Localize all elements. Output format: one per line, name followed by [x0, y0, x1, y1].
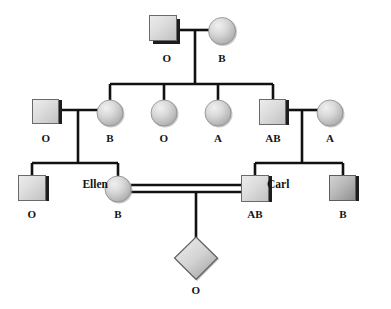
blood-type-label-iii-3: AB [247, 209, 263, 220]
symbol-iv-1 [175, 237, 220, 281]
symbol-iii-2 [105, 176, 133, 204]
blood-type-label-ii-6: A [326, 133, 334, 144]
blood-type-label-ii-2: B [106, 133, 114, 144]
symbol-ii-3 [151, 100, 179, 128]
blood-type-label-iv-1: O [192, 285, 201, 296]
blood-type-label-ii-4: A [214, 133, 222, 144]
connector-lines [32, 30, 343, 238]
pedigree-graphics [0, 0, 391, 309]
blood-type-label-i-2: B [218, 53, 226, 64]
blood-type-label-iii-4: B [339, 209, 347, 220]
blood-type-label-ii-3: O [160, 133, 169, 144]
person-name-carl: Carl [267, 179, 289, 191]
symbol-i-2 [209, 18, 238, 47]
blood-type-label-ii-1: O [42, 133, 51, 144]
pedigree-chart: O B O B O A AB A O B AB B O Ellen Carl [0, 0, 391, 309]
blood-type-label-iii-2: B [114, 209, 122, 220]
symbol-ii-6 [317, 100, 345, 128]
pedigree-symbols [19, 16, 360, 282]
symbol-ii-4 [205, 100, 233, 128]
symbol-iii-1 [19, 176, 50, 202]
blood-type-label-ii-5: AB [265, 133, 281, 144]
symbol-i-1 [150, 16, 181, 45]
symbol-ii-1 [33, 100, 63, 125]
blood-type-label-iii-1: O [28, 209, 37, 220]
blood-type-label-i-1: O [163, 53, 172, 64]
symbol-ii-2 [97, 100, 125, 128]
person-name-ellen: Ellen [82, 179, 108, 191]
symbol-ii-5 [260, 100, 290, 126]
symbol-iii-4 [330, 176, 360, 202]
